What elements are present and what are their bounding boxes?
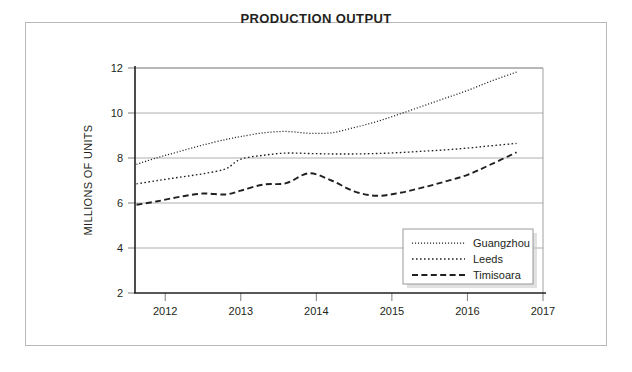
legend-label-guangzhou[interactable]: Guangzhou	[473, 237, 530, 249]
y-tick-label: 8	[117, 152, 123, 164]
y-tick-label: 12	[111, 62, 123, 74]
y-tick-label: 2	[117, 287, 123, 299]
grid-lines	[135, 68, 543, 248]
y-tick-label: 4	[117, 242, 123, 254]
x-tick-label: 2014	[304, 305, 328, 317]
line-chart: 24681012 201220132014201520162017 MILLIO…	[0, 0, 632, 372]
x-tick-label: 2017	[531, 305, 555, 317]
y-axis-ticks: 24681012	[111, 62, 135, 299]
legend-label-leeds[interactable]: Leeds	[473, 253, 503, 265]
data-series	[137, 72, 517, 205]
legend-label-timisoara[interactable]: Timisoara	[473, 269, 522, 281]
y-tick-label: 10	[111, 107, 123, 119]
x-tick-label: 2013	[229, 305, 253, 317]
chart-legend[interactable]: GuangzhouLeedsTimisoara	[403, 229, 537, 288]
y-tick-label: 6	[117, 197, 123, 209]
series-line-timisoara	[137, 152, 517, 204]
x-tick-label: 2015	[380, 305, 404, 317]
x-tick-label: 2012	[153, 305, 177, 317]
y-axis-title: MILLIONS OF UNITS	[82, 125, 94, 236]
series-line-guangzhou	[137, 72, 517, 164]
x-axis-ticks: 201220132014201520162017	[153, 293, 555, 317]
x-tick-label: 2016	[455, 305, 479, 317]
screenshot-page: PRODUCTION OUTPUT 24681012 2012201320142…	[0, 0, 632, 372]
chart-canvas: 24681012 201220132014201520162017 MILLIO…	[0, 0, 632, 372]
